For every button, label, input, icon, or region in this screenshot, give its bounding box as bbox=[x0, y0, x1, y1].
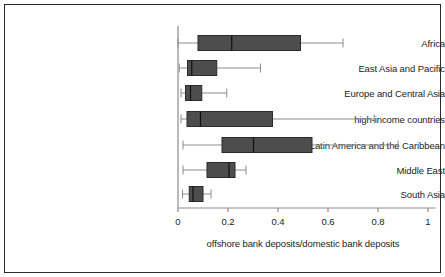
boxplot-row-3 bbox=[181, 112, 374, 127]
boxplot-row-0 bbox=[178, 36, 343, 51]
boxplot-row-2 bbox=[181, 86, 227, 101]
boxplot-row-1 bbox=[179, 61, 260, 76]
box-iqr bbox=[186, 86, 202, 101]
boxplot-row-6 bbox=[183, 187, 212, 202]
boxplot-chart: Africa East Asia and Pacific Europe and … bbox=[0, 0, 445, 277]
boxplot-row-4 bbox=[183, 138, 398, 153]
box-iqr bbox=[198, 36, 301, 51]
box-iqr bbox=[187, 112, 273, 127]
boxes-group bbox=[178, 36, 398, 202]
plot-svg bbox=[0, 0, 445, 277]
box-iqr bbox=[222, 138, 312, 153]
boxplot-row-5 bbox=[183, 163, 246, 178]
box-iqr bbox=[189, 187, 203, 202]
box-iqr bbox=[207, 163, 235, 178]
